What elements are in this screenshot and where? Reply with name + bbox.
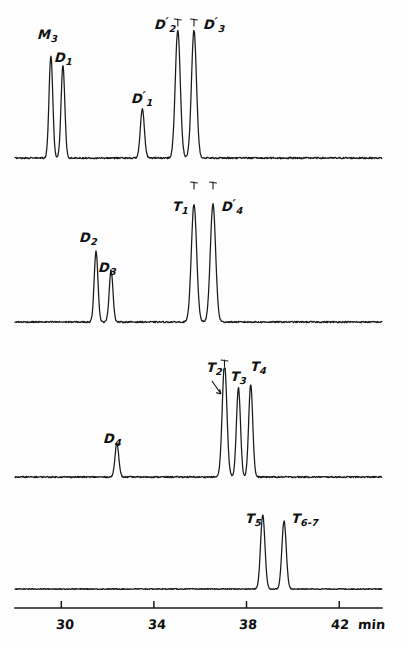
axis-tick-label-38: 38 [238,618,257,631]
off-scale-flag-icon [191,19,198,26]
peak-label-t2: T2 [207,361,224,374]
peak-label-m3: M3 [38,28,59,41]
chromatogram-figure: M3 D1 D′1 D′2 D′3 D2 D3 T1 D′4 D4 T2 T3 … [0,0,403,645]
prime-mark-d2: ′ [165,15,169,29]
prime-mark-d4: ′ [232,197,236,211]
axis-tick-label-42: 42 [330,618,349,631]
peak-label-d4-prime: D′4 [222,200,244,213]
peak-label-d3-prime: D′3 [204,18,226,31]
axis-tick-label-34: 34 [147,618,166,631]
chromatogram-trace-2 [15,204,382,323]
off-scale-flag-icon [191,182,198,189]
peak-label-d4: D4 [104,432,123,445]
t2-pointer-arrow-icon [212,381,221,394]
prime-mark-d3: ′ [214,15,218,29]
peak-label-t5: T5 [246,512,263,525]
prime-mark-d1: ′ [142,89,146,103]
peak-label-d1-prime: D′1 [132,92,154,105]
peak-label-d2-prime: D′2 [155,18,177,31]
chromatogram-trace-4 [15,515,382,589]
axis-unit-label: min [358,618,386,631]
peak-label-t1: T1 [173,200,190,213]
peak-label-d1: D1 [55,51,74,64]
peak-label-d3: D3 [99,261,118,274]
chromatogram-plot [0,0,403,645]
peak-label-t3: T3 [231,370,248,383]
off-scale-flag-icon [210,182,217,189]
peak-label-t4: T4 [251,360,268,373]
peak-label-d2: D2 [80,231,99,244]
chromatogram-trace-1 [15,30,382,158]
chromatogram-trace-3 [15,368,382,478]
traces-group [15,19,382,589]
time-axis [15,601,382,608]
axis-tick-label-30: 30 [55,618,74,631]
peak-label-t67: T6-7 [292,512,320,525]
